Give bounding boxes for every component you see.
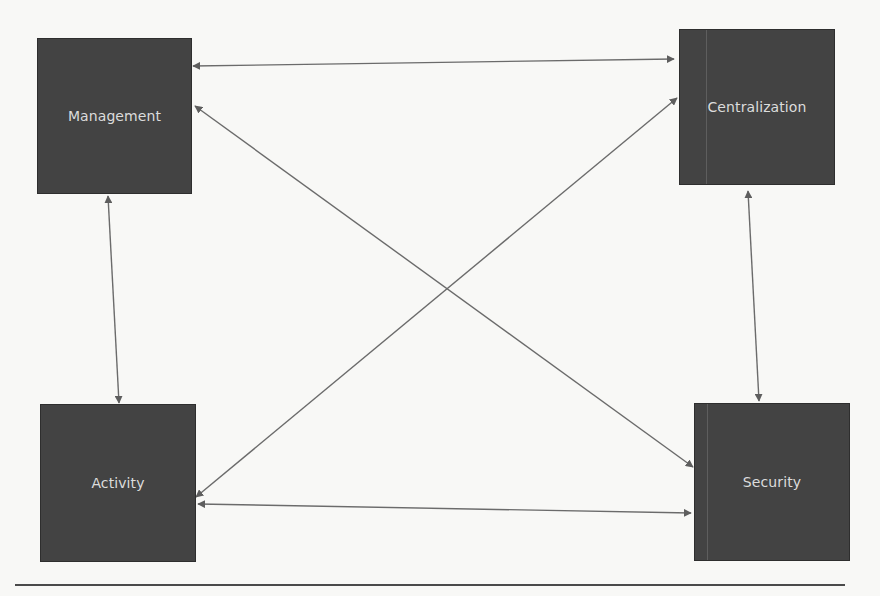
node-label-security: Security [743,474,801,490]
edge-activity-security [198,504,691,513]
edge-centralization-security [748,191,759,401]
diagram-canvas: Management Centralization Activity Secur… [0,0,880,596]
node-security: Security [694,403,850,561]
scan-fold-line [707,404,708,560]
page-bottom-rule [15,584,845,586]
node-centralization: Centralization [679,29,835,185]
node-label-centralization: Centralization [707,99,806,115]
scan-fold-line [706,30,707,184]
node-label-management: Management [68,108,161,124]
node-management: Management [37,38,192,194]
node-activity: Activity [40,404,196,562]
edge-management-centralization [193,59,674,66]
edge-management-security [195,106,693,467]
node-label-activity: Activity [91,475,144,491]
edge-centralization-activity [196,98,677,497]
edge-management-activity [108,196,119,403]
